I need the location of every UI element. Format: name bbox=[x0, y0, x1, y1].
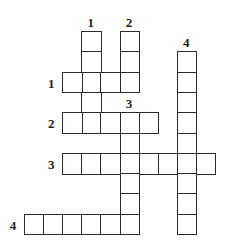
grid-cell[interactable] bbox=[120, 51, 141, 73]
grid-cell[interactable] bbox=[196, 153, 217, 175]
grid-cell[interactable] bbox=[81, 31, 102, 53]
grid-cell[interactable] bbox=[177, 153, 198, 175]
grid-cell[interactable] bbox=[120, 173, 141, 195]
grid-cell[interactable] bbox=[62, 112, 83, 134]
down-clue-number-3: 3 bbox=[126, 97, 133, 110]
grid-cell[interactable] bbox=[177, 133, 198, 155]
grid-cell[interactable] bbox=[177, 173, 198, 195]
grid-cell[interactable] bbox=[139, 112, 160, 134]
down-clue-number-1: 1 bbox=[88, 16, 95, 29]
grid-cell[interactable] bbox=[120, 214, 141, 236]
grid-cell[interactable] bbox=[81, 92, 102, 114]
across-clue-number-4: 4 bbox=[10, 218, 17, 231]
grid-cell[interactable] bbox=[100, 153, 121, 175]
grid-cell[interactable] bbox=[177, 214, 198, 236]
grid-cell[interactable] bbox=[177, 72, 198, 94]
grid-cell[interactable] bbox=[81, 112, 102, 134]
grid-cell[interactable] bbox=[81, 214, 102, 236]
grid-cell[interactable] bbox=[120, 133, 141, 155]
grid-cell[interactable] bbox=[24, 214, 45, 236]
grid-cell[interactable] bbox=[120, 193, 141, 215]
across-clue-number-1: 1 bbox=[48, 76, 55, 89]
grid-cell[interactable] bbox=[177, 51, 198, 73]
grid-cell[interactable] bbox=[43, 214, 64, 236]
grid-cell[interactable] bbox=[100, 214, 121, 236]
grid-cell[interactable] bbox=[177, 92, 198, 114]
grid-cell[interactable] bbox=[177, 193, 198, 215]
down-clue-number-4: 4 bbox=[183, 36, 190, 49]
grid-cell[interactable] bbox=[139, 153, 160, 175]
grid-cell[interactable] bbox=[81, 153, 102, 175]
down-clue-number-2: 2 bbox=[126, 16, 133, 29]
across-clue-number-2: 2 bbox=[48, 117, 55, 130]
grid-cell[interactable] bbox=[177, 112, 198, 134]
grid-cell[interactable] bbox=[120, 72, 141, 94]
grid-cell[interactable] bbox=[81, 72, 102, 94]
grid-cell[interactable] bbox=[158, 153, 179, 175]
across-clue-number-3: 3 bbox=[48, 157, 55, 170]
grid-cell[interactable] bbox=[62, 72, 83, 94]
grid-cell[interactable] bbox=[81, 51, 102, 73]
grid-cell[interactable] bbox=[100, 72, 121, 94]
grid-cell[interactable] bbox=[120, 31, 141, 53]
grid-cell[interactable] bbox=[62, 214, 83, 236]
grid-cell[interactable] bbox=[120, 153, 141, 175]
grid-cell[interactable] bbox=[100, 112, 121, 134]
grid-cell[interactable] bbox=[120, 112, 141, 134]
crossword-grid: 12341234 bbox=[0, 0, 228, 247]
grid-cell[interactable] bbox=[62, 153, 83, 175]
